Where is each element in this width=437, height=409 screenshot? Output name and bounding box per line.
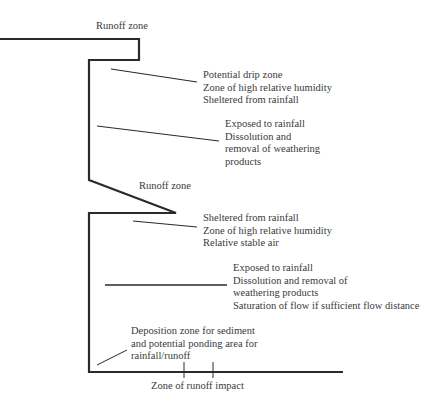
- label-runoff-impact: Zone of runoff impact: [151, 380, 244, 393]
- label-runoff-zone-top: Runoff zone: [96, 20, 148, 33]
- label-exposed-upper: Exposed to rainfall Dissolution and remo…: [225, 118, 320, 168]
- label-drip-zone: Potential drip zone Zone of high relativ…: [203, 69, 332, 107]
- leader-drip: [111, 69, 197, 82]
- leader-sheltered-lower: [133, 221, 197, 227]
- label-exposed-lower: Exposed to rainfall Dissolution and remo…: [233, 262, 419, 312]
- label-sheltered-lower: Sheltered from rainfall Zone of high rel…: [203, 212, 332, 250]
- leader-deposition: [97, 350, 127, 365]
- leader-exposed-upper: [97, 126, 219, 141]
- label-runoff-zone-mid: Runoff zone: [139, 180, 191, 193]
- label-deposition-zone: Deposition zone for sediment and potenti…: [131, 325, 258, 363]
